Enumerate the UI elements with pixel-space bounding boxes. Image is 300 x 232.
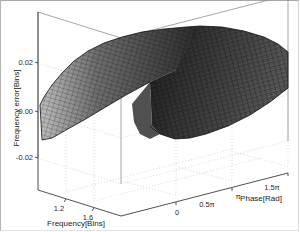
floorline-y-pi: [177, 167, 232, 181]
gridline-z-neg002-right: [121, 141, 288, 184]
xaxis-title: Frequency[Bins]: [47, 219, 105, 228]
ztick-neg002: -0.02: [16, 153, 33, 162]
surface-mesh: [40, 26, 288, 140]
xtick-12: 1.2: [54, 204, 64, 213]
ytick-0: 0: [175, 208, 179, 217]
zaxis-title: Frequency error[Bins]: [12, 70, 21, 147]
floorline-y-05pi: [121, 181, 176, 195]
surface-plot-3d: 0.02 0.00 -0.02 1.2 1.6 0 0.5π π 1.5π Fr…: [0, 0, 300, 232]
floorline-y-15pi: [233, 152, 288, 166]
yaxis-title: Phase[Rad]: [240, 194, 282, 203]
figure-canvas: 0.02 0.00 -0.02 1.2 1.6 0 0.5π π 1.5π Fr…: [0, 0, 300, 232]
ztick-002: 0.02: [18, 58, 33, 67]
ytick-15pi: 1.5π: [264, 183, 280, 192]
axis-line-x: [38, 190, 121, 216]
ytick-05pi: 0.5π: [199, 200, 215, 209]
gridline-z-neg002: [38, 158, 121, 184]
floorline-x-12: [66, 149, 233, 192]
